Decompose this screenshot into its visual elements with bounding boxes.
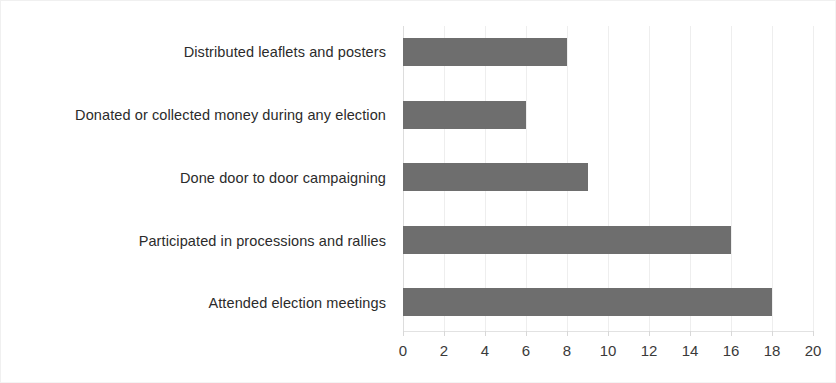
tick-label: 16 (723, 341, 740, 361)
tick-mark (731, 331, 732, 336)
bar (403, 101, 526, 129)
x-axis-tick-labels: 02468101214161820 (403, 341, 813, 365)
tick-label: 10 (600, 341, 617, 361)
gridline (813, 26, 814, 331)
tick-label: 6 (522, 341, 530, 361)
tick-label: 4 (481, 341, 489, 361)
tick-mark (567, 331, 568, 336)
category-label: Donated or collected money during any el… (6, 107, 386, 123)
bar (403, 288, 772, 316)
category-label: Distributed leaflets and posters (6, 44, 386, 60)
tick-label: 12 (641, 341, 658, 361)
tick-label: 0 (399, 341, 407, 361)
x-axis-ticks (403, 331, 813, 336)
plot-area (403, 26, 813, 331)
tick-mark (772, 331, 773, 336)
bar-series (403, 26, 813, 331)
tick-mark (649, 331, 650, 336)
tick-label: 20 (805, 341, 822, 361)
tick-mark (813, 331, 814, 336)
tick-label: 8 (563, 341, 571, 361)
tick-mark (608, 331, 609, 336)
bar (403, 163, 588, 191)
tick-mark (485, 331, 486, 336)
category-label: Done door to door campaigning (6, 170, 386, 186)
category-label: Participated in processions and rallies (6, 233, 386, 249)
bar (403, 38, 567, 66)
tick-mark (690, 331, 691, 336)
tick-label: 18 (764, 341, 781, 361)
tick-mark (444, 331, 445, 336)
tick-label: 2 (440, 341, 448, 361)
tick-mark (403, 331, 404, 336)
tick-label: 14 (682, 341, 699, 361)
category-label: Attended election meetings (6, 295, 386, 311)
category-axis-labels: Distributed leaflets and posters Donated… (1, 1, 395, 331)
tick-mark (526, 331, 527, 336)
bar (403, 226, 731, 254)
bar-chart: Distributed leaflets and posters Donated… (0, 0, 836, 383)
